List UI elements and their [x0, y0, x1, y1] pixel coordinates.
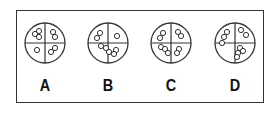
option-label-a: A [32, 76, 58, 96]
option-label-c: C [158, 76, 184, 96]
option-circle-d [215, 23, 255, 63]
option-circle-a [25, 23, 65, 63]
option-label-d: D [222, 76, 248, 96]
option-circle-b [88, 23, 128, 63]
option-label-b: B [95, 76, 121, 96]
option-circle-c [151, 23, 191, 63]
options-diagram [0, 0, 280, 113]
